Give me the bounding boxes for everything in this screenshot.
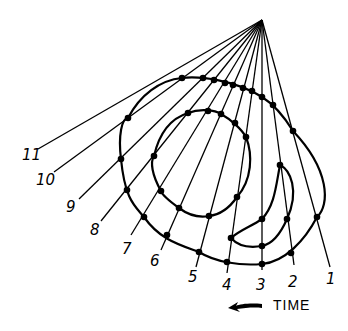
intersection-dot: [205, 108, 212, 115]
intersection-dot: [284, 216, 291, 223]
ray-label-6: 6: [150, 252, 160, 270]
ray-line-7: [131, 20, 262, 235]
diagram-canvas: 1234567891011 TIME: [0, 0, 348, 331]
intersection-dot: [218, 111, 225, 118]
ray-label-8: 8: [90, 221, 100, 239]
intersection-dot: [206, 213, 213, 220]
intersection-dot: [176, 205, 183, 212]
curves: [120, 78, 325, 265]
intersection-dot: [179, 75, 186, 82]
ray-label-11: 11: [22, 146, 41, 164]
intersection-dot: [259, 94, 266, 101]
intersection-dot: [164, 232, 171, 239]
intersection-dot: [234, 194, 241, 201]
intersection-dot: [151, 153, 158, 160]
ray-label-5: 5: [188, 268, 198, 286]
intersection-dot: [243, 134, 250, 141]
outer-spiral-curve: [120, 78, 325, 265]
intersection-dot: [200, 75, 207, 82]
intersection-dot: [141, 214, 148, 221]
intersection-dot: [118, 156, 125, 163]
intersection-dot: [259, 261, 266, 268]
ray-line-2: [262, 20, 294, 265]
left-arrow-icon: [228, 302, 262, 312]
intersection-dot: [240, 85, 247, 92]
intersection-dot: [232, 120, 239, 127]
intersection-dot: [185, 110, 192, 117]
intersection-dot: [249, 88, 256, 95]
ray-label-2: 2: [288, 273, 298, 291]
intersection-dot: [259, 216, 266, 223]
intersection-dot: [314, 214, 321, 221]
intersection-dot: [211, 77, 218, 84]
intersection-dot: [228, 235, 235, 242]
intersection-dot: [230, 82, 237, 89]
intersection-dot: [277, 162, 284, 169]
ray-lines: [38, 20, 330, 273]
intersection-dot: [259, 243, 266, 250]
ray-line-1: [262, 20, 330, 267]
time-indicator: TIME: [228, 297, 310, 313]
ray-label-1: 1: [326, 270, 336, 288]
intersection-dot: [124, 187, 131, 194]
ray-label-4: 4: [222, 276, 232, 294]
intersection-dot: [125, 115, 132, 122]
intersection-dot: [224, 259, 231, 266]
intersection-dot: [290, 128, 297, 135]
intersection-dot: [196, 249, 203, 256]
time-label: TIME: [273, 297, 310, 313]
ray-label-9: 9: [66, 198, 76, 216]
intersection-dot: [158, 188, 165, 195]
spiral-time-diagram: 1234567891011 TIME: [0, 0, 348, 331]
ray-label-10: 10: [36, 171, 55, 189]
ray-label-3: 3: [256, 276, 266, 294]
intersection-dot: [270, 102, 277, 109]
ray-label-7: 7: [122, 240, 132, 258]
ray-line-5: [196, 20, 262, 267]
intersection-dot: [222, 80, 229, 87]
intersection-dot: [288, 250, 295, 257]
